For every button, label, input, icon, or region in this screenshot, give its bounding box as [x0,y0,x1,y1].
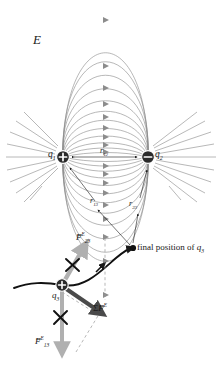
vector-arrow-icon-f13: → [35,335,43,343]
distance-label-r23: r23 [129,200,137,211]
vector-arrow-icon: → [76,231,84,239]
field-lines-layer [0,0,222,365]
final-position-label: final position of q3 [137,243,204,254]
vector-arrow-icon-sum: → [98,302,106,310]
field-label-E: E [33,33,41,46]
force-label-F23: →FE23 [76,232,90,244]
force-label-F13: →FE13 [35,336,49,348]
charge-label-q1: q1 [48,150,56,162]
distance-label-r13: r13 [90,197,98,208]
final-position-dot [130,245,136,251]
parallelogram-guides [62,238,105,352]
net-force-label: Σ→FE [93,303,107,313]
charge-label-q2: q2 [155,150,163,162]
electric-field-diagram: E q1 q2 q3 r12 r13 r23 final position of… [0,0,222,365]
distance-label-r12: r12 [100,147,108,158]
charge-label-q3: q3 [52,291,59,302]
